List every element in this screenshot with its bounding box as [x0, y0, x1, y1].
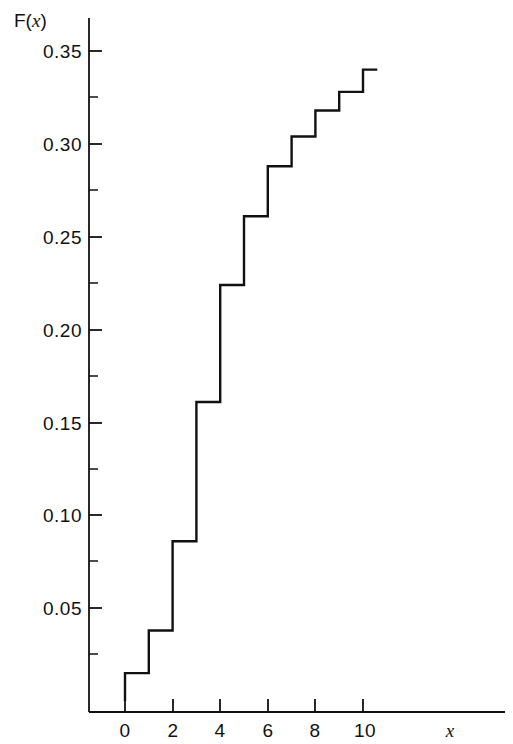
y-tick-label: 0.35 [43, 41, 82, 62]
y-axis-major-ticks [89, 51, 102, 608]
x-tick-label: 6 [262, 720, 273, 741]
y-axis-minor-ticks [89, 97, 98, 654]
x-tick-label: 2 [167, 720, 178, 741]
chart-figure: F(x) 0.35 0.30 0.25 [0, 0, 513, 744]
step-chart-plot: F(x) 0.35 0.30 0.25 [0, 0, 513, 744]
y-axis-label: F(x) [14, 10, 47, 31]
step-function-curve [125, 70, 377, 701]
y-tick-label: 0.30 [43, 134, 82, 155]
y-tick-label: 0.10 [43, 505, 82, 526]
y-tick-label: 0.25 [43, 227, 82, 248]
y-tick-label: 0.15 [43, 413, 82, 434]
x-tick-label: 10 [354, 720, 376, 741]
x-axis-major-ticks [125, 699, 363, 712]
y-tick-label: 0.05 [43, 598, 82, 619]
x-axis-tick-labels: 0 2 4 6 8 10 [119, 720, 376, 741]
x-tick-label: 8 [309, 720, 320, 741]
y-axis-tick-labels: 0.35 0.30 0.25 0.20 0.15 0.10 0.05 [43, 41, 82, 619]
x-axis-label: x [445, 720, 455, 741]
x-tick-label: 0 [119, 720, 130, 741]
x-tick-label: 4 [214, 720, 225, 741]
y-tick-label: 0.20 [43, 320, 82, 341]
